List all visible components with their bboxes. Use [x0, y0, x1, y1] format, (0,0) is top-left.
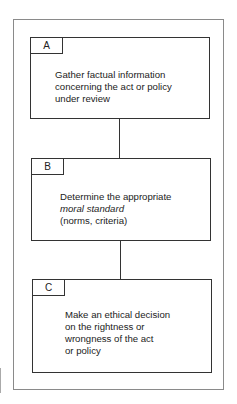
- step-c-line-3: wrongness of the act: [65, 333, 170, 345]
- step-text-b: Determine the appropriate moral standard…: [60, 191, 171, 227]
- step-a-line-1: Gather factual information: [55, 69, 172, 81]
- moral-standard-emphasis: moral standard: [60, 203, 124, 214]
- step-text-c: Make an ethical decision on the rightnes…: [65, 309, 170, 357]
- step-c-line-1: Make an ethical decision: [65, 309, 170, 321]
- step-label-b: B: [31, 158, 64, 175]
- step-b-line-2-italic: moral standard: [60, 203, 171, 215]
- step-b-line-3: (norms, criteria): [60, 215, 171, 227]
- step-box-a: A Gather factual information concerning …: [30, 37, 210, 119]
- step-a-line-2: concerning the act or policy: [55, 81, 172, 93]
- step-label-a: A: [30, 37, 63, 54]
- step-box-c: C Make an ethical decision on the rightn…: [32, 279, 212, 373]
- step-c-line-2: on the rightness or: [65, 321, 170, 333]
- connector-a-b: [119, 119, 120, 159]
- step-b-line-1: Determine the appropriate: [60, 191, 171, 203]
- step-a-line-3: under review: [55, 93, 172, 105]
- page-edge-mark: [0, 368, 1, 393]
- step-box-b: B Determine the appropriate moral standa…: [31, 158, 211, 241]
- connector-b-c: [120, 241, 121, 280]
- step-c-line-4: or policy: [65, 345, 170, 357]
- step-text-a: Gather factual information concerning th…: [55, 69, 172, 105]
- step-label-c: C: [32, 279, 65, 296]
